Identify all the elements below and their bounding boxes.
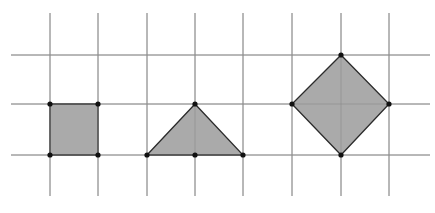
- square-vertex-dot: [47, 101, 52, 106]
- diamond-shape: [292, 55, 389, 155]
- diamond-vertex-dot: [289, 101, 294, 106]
- diamond-vertex-dot: [338, 52, 343, 57]
- triangle-vertex-dot: [144, 152, 149, 157]
- triangle-vertex-dot: [240, 152, 245, 157]
- diamond-vertex-dot: [386, 101, 391, 106]
- triangle-vertex-dot: [192, 101, 197, 106]
- triangle-vertex-dot: [192, 152, 197, 157]
- square-vertex-dot: [95, 101, 100, 106]
- grid-shapes-diagram: [0, 0, 435, 213]
- square-shape: [50, 104, 98, 155]
- diamond-vertex-dot: [338, 152, 343, 157]
- square-vertex-dot: [95, 152, 100, 157]
- square-vertex-dot: [47, 152, 52, 157]
